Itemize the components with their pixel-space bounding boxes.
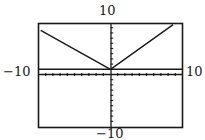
axes: [39, 24, 183, 128]
plot-area: [0, 0, 205, 140]
v-graph-line: [41, 25, 173, 70]
